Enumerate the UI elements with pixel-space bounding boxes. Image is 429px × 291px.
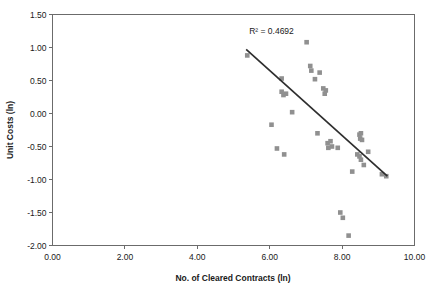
y-tick-label: -2.00 [27,241,47,251]
data-point [350,169,355,174]
data-point [362,163,367,168]
chart-svg: 0.002.004.006.008.0010.00 1.501.000.500.… [0,0,429,291]
data-point [359,131,364,136]
x-axis-tick-labels: 0.002.004.006.008.0010.00 [44,252,425,262]
y-tick-label: -1.50 [27,208,47,218]
x-axis-ticks [125,246,342,250]
data-point [275,146,280,151]
y-axis-tick-labels: 1.501.000.500.00-0.50-1.00-1.50-2.00 [27,10,47,251]
data-point [338,210,343,215]
data-point [335,146,340,151]
data-point [304,40,309,45]
x-tick-label: 0.00 [44,252,61,262]
y-tick-label: 1.00 [30,43,47,53]
y-tick-label: 0.50 [30,76,47,86]
data-point [290,110,295,115]
annotation-label: R² = 0.4692 [249,26,294,36]
data-point [308,64,313,69]
data-point [326,146,331,151]
y-tick-label: 1.50 [30,10,47,20]
data-point [309,68,314,73]
x-tick-label: 10.00 [404,252,426,262]
data-point [284,91,289,96]
x-tick-label: 8.00 [334,252,351,262]
y-tick-label: -0.50 [27,142,47,152]
data-point [313,77,318,82]
data-point [245,53,250,58]
data-point [328,139,333,144]
y-axis-title: Unit Costs (ln) [5,101,15,159]
scatter-data-points [245,40,389,238]
data-point [346,233,351,238]
data-point [322,91,327,96]
data-point [360,138,365,143]
data-point [359,157,364,162]
scatter-chart-figure: 0.002.004.006.008.0010.00 1.501.000.500.… [0,0,429,291]
x-tick-label: 6.00 [261,252,278,262]
data-point [366,149,371,154]
x-tick-label: 4.00 [189,252,206,262]
y-tick-label: -1.00 [27,175,47,185]
data-point [341,215,346,220]
y-tick-label: 0.00 [30,109,47,119]
data-point [317,70,322,75]
data-point [282,152,287,157]
r-squared-annotation: R² = 0.4692 [249,26,294,36]
y-axis-ticks [49,15,53,246]
x-tick-label: 2.00 [117,252,134,262]
data-point [315,131,320,136]
trendline [246,49,387,176]
data-point [269,122,274,127]
x-axis-title: No. of Cleared Contracts (ln) [175,273,290,283]
plot-frame [53,15,415,246]
